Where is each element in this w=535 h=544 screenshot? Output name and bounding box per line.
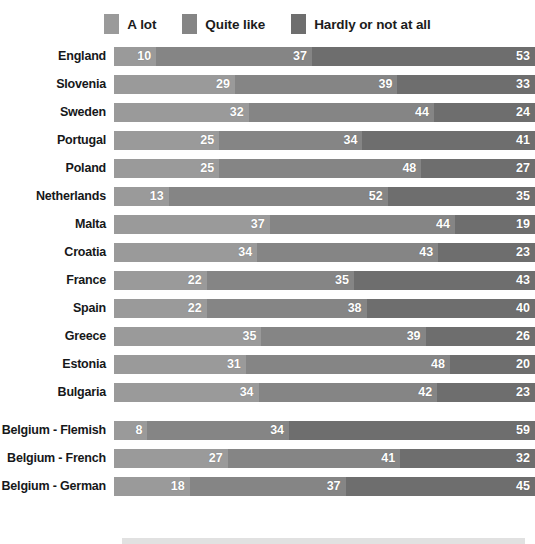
bar-segment[interactable]: 35 [207, 271, 354, 290]
bar-segment-value: 37 [251, 215, 265, 234]
bar-segment[interactable]: 26 [426, 327, 535, 346]
bar-segment[interactable]: 25 [114, 159, 219, 178]
bar-segment[interactable]: 37 [156, 47, 312, 66]
bar-segment-value: 22 [188, 271, 202, 290]
bar-segment[interactable]: 44 [249, 103, 434, 122]
bar-row[interactable]: Malta374419 [0, 215, 535, 234]
bar-segment[interactable]: 27 [421, 159, 535, 178]
bar-row[interactable]: France223543 [0, 271, 535, 290]
bar-segment[interactable]: 24 [434, 103, 535, 122]
stacked-bar: 274132 [114, 449, 535, 468]
bar-segment[interactable]: 59 [289, 421, 535, 440]
bar-segment-value: 40 [516, 299, 530, 318]
bar-segment[interactable]: 41 [228, 449, 401, 468]
bar-row[interactable]: Bulgaria344223 [0, 383, 535, 402]
bar-segment[interactable]: 22 [114, 271, 207, 290]
stacked-bar: 314820 [114, 355, 535, 374]
legend-swatch-quite-like [182, 14, 197, 34]
bar-segment[interactable]: 39 [235, 75, 398, 94]
chart-legend: A lotQuite likeHardly or not at all [0, 11, 535, 37]
bar-segment[interactable]: 44 [270, 215, 455, 234]
bar-segment-value: 34 [343, 131, 357, 150]
footer-divider [122, 538, 525, 544]
bar-segment[interactable]: 37 [114, 215, 270, 234]
legend-item-label: Hardly or not at all [314, 17, 431, 32]
bar-segment[interactable]: 13 [114, 187, 169, 206]
bar-segment[interactable]: 34 [114, 383, 259, 402]
bar-segment[interactable]: 25 [114, 131, 219, 150]
bar-row[interactable]: Croatia344323 [0, 243, 535, 262]
bar-segment[interactable]: 43 [354, 271, 535, 290]
bar-segment[interactable]: 33 [397, 75, 535, 94]
bar-segment[interactable]: 39 [261, 327, 425, 346]
bar-segment[interactable]: 37 [190, 477, 346, 496]
bar-segment[interactable]: 41 [362, 131, 535, 150]
bar-segment[interactable]: 35 [388, 187, 535, 206]
bar-segment[interactable]: 18 [114, 477, 190, 496]
bar-segment[interactable]: 34 [219, 131, 362, 150]
bar-segment[interactable]: 35 [114, 327, 261, 346]
bar-row-label: Malta [0, 215, 114, 234]
legend-item[interactable]: Hardly or not at all [291, 14, 431, 34]
stacked-bar: 223543 [114, 271, 535, 290]
bar-segment[interactable]: 45 [346, 477, 535, 496]
bar-segment-value: 13 [150, 187, 164, 206]
bar-row[interactable]: England103753 [0, 47, 535, 66]
bar-group-belgium-regions: Belgium - Flemish83459Belgium - French27… [0, 421, 535, 496]
bar-segment[interactable]: 19 [455, 215, 535, 234]
bar-segment[interactable]: 40 [367, 299, 535, 318]
bar-segment-value: 35 [516, 187, 530, 206]
bar-segment-value: 44 [436, 215, 450, 234]
legend-item[interactable]: A lot [104, 14, 156, 34]
bar-segment[interactable]: 42 [259, 383, 438, 402]
bar-segment-value: 44 [415, 103, 429, 122]
bar-segment[interactable]: 8 [114, 421, 147, 440]
bar-segment[interactable]: 38 [207, 299, 367, 318]
bar-row[interactable]: Belgium - French274132 [0, 449, 535, 468]
bar-segment[interactable]: 10 [114, 47, 156, 66]
bar-segment[interactable]: 53 [312, 47, 535, 66]
bar-segment-value: 22 [188, 299, 202, 318]
bar-row[interactable]: Belgium - Flemish83459 [0, 421, 535, 440]
legend-item-label: Quite like [205, 17, 265, 32]
bar-segment[interactable]: 31 [114, 355, 246, 374]
stacked-bar: 344323 [114, 243, 535, 262]
bar-row[interactable]: Greece353926 [0, 327, 535, 346]
legend-item-label: A lot [127, 17, 156, 32]
bar-row[interactable]: Spain223840 [0, 299, 535, 318]
bar-segment[interactable]: 20 [450, 355, 535, 374]
bar-segment[interactable]: 23 [438, 243, 535, 262]
legend-swatch-a-lot [104, 14, 119, 34]
bar-row-label: Bulgaria [0, 383, 114, 402]
legend-item[interactable]: Quite like [182, 14, 265, 34]
bar-segment-value: 33 [516, 75, 530, 94]
bar-row-label: Poland [0, 159, 114, 178]
bar-row[interactable]: Slovenia293933 [0, 75, 535, 94]
bar-segment[interactable]: 22 [114, 299, 207, 318]
bar-segment-value: 39 [407, 327, 421, 346]
bar-segment-value: 34 [270, 421, 284, 440]
bar-segment[interactable]: 52 [169, 187, 388, 206]
bar-segment-value: 25 [200, 131, 214, 150]
bar-segment[interactable]: 29 [114, 75, 235, 94]
bar-row[interactable]: Netherlands135235 [0, 187, 535, 206]
bar-segment[interactable]: 23 [437, 383, 535, 402]
bar-segment[interactable]: 48 [246, 355, 450, 374]
bar-segment[interactable]: 48 [219, 159, 421, 178]
bar-segment[interactable]: 34 [147, 421, 289, 440]
bar-row[interactable]: Belgium - German183745 [0, 477, 535, 496]
bar-row[interactable]: Portugal253441 [0, 131, 535, 150]
bar-row-label: Greece [0, 327, 114, 346]
bar-row[interactable]: Sweden324424 [0, 103, 535, 122]
bar-segment[interactable]: 34 [114, 243, 257, 262]
bar-segment-value: 25 [200, 159, 214, 178]
bar-segment[interactable]: 32 [114, 103, 249, 122]
bar-row[interactable]: Estonia314820 [0, 355, 535, 374]
bar-segment-value: 37 [293, 47, 307, 66]
bar-segment-value: 59 [516, 421, 530, 440]
bar-row[interactable]: Poland254827 [0, 159, 535, 178]
bar-segment[interactable]: 43 [257, 243, 438, 262]
bar-segment-value: 10 [137, 47, 151, 66]
bar-segment[interactable]: 32 [400, 449, 535, 468]
bar-segment[interactable]: 27 [114, 449, 228, 468]
